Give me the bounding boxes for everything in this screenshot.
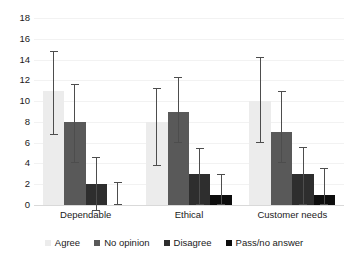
y-tick-label: 2 [25,179,30,189]
legend-item[interactable]: No opinion [94,238,149,248]
chart-legend: AgreeNo opinionDisagreePass/no answer [0,238,348,248]
x-tick-label: Customer needs [257,210,327,220]
error-bar [74,84,75,163]
legend-label: Agree [55,238,80,248]
error-bar [303,147,304,205]
bar-slot [210,18,231,205]
error-bar-cap-top [153,88,161,89]
error-bar-cap-bottom [278,162,286,163]
bar-slot [314,18,335,205]
bar-slot [64,18,85,205]
bar-slot [168,18,189,205]
error-bar-cap-bottom [217,204,225,205]
error-bar-cap-bottom [174,142,182,143]
error-bar-cap-bottom [256,142,264,143]
error-bar [324,168,325,205]
error-bar [221,174,222,205]
legend-swatch-icon [226,240,232,246]
legend-label: Pass/no answer [236,238,304,248]
error-bar [96,157,97,211]
bar-group [241,18,344,205]
error-bar-cap-bottom [196,204,204,205]
error-bar [199,148,200,205]
error-bar-cap-top [256,57,264,58]
error-bar-cap-bottom [114,204,122,205]
error-bar-cap-top [71,84,79,85]
bar-group [137,18,240,205]
legend-item[interactable]: Disagree [164,238,212,248]
bar-chart: 024681012141618 DependableEthicalCustome… [0,0,348,261]
y-tick-label: 4 [25,159,30,169]
y-tick-label: 14 [19,55,30,65]
error-bar [281,91,282,164]
legend-label: No opinion [104,238,149,248]
bar-group [34,18,137,205]
error-bar [260,57,261,142]
error-bar-cap-top [299,147,307,148]
plot-area [34,18,344,205]
bar-slot [107,18,128,205]
bar-slot [271,18,292,205]
bar-slot [43,18,64,205]
y-tick-label: 16 [19,34,30,44]
error-bar-cap-top [174,77,182,78]
y-tick-label: 18 [19,13,30,23]
error-bar-cap-bottom [299,204,307,205]
error-bar [156,88,157,166]
bar-slot [189,18,210,205]
x-tick-label: Dependable [60,210,111,220]
y-tick-label: 12 [19,76,30,86]
error-bar [117,182,118,205]
error-bar-cap-top [217,174,225,175]
axis-baseline [34,205,344,206]
x-tick-label: Ethical [175,210,204,220]
legend-swatch-icon [94,240,100,246]
legend-item[interactable]: Agree [45,238,80,248]
error-bar-cap-top [92,157,100,158]
error-bar-cap-top [196,148,204,149]
bar-slot [146,18,167,205]
y-tick-label: 8 [25,117,30,127]
error-bar-cap-top [320,168,328,169]
error-bar-cap-top [114,182,122,183]
y-tick-label: 6 [25,138,30,148]
legend-swatch-icon [45,240,51,246]
legend-label: Disagree [174,238,212,248]
error-bar-cap-bottom [320,204,328,205]
error-bar-cap-bottom [50,134,58,135]
bar-slot [292,18,313,205]
y-tick-label: 0 [25,200,30,210]
error-bar [178,77,179,142]
error-bar [53,51,54,135]
error-bar-cap-bottom [71,162,79,163]
bar-slot [249,18,270,205]
y-tick-label: 10 [19,96,30,106]
error-bar-cap-top [278,91,286,92]
error-bar-cap-bottom [153,165,161,166]
legend-item[interactable]: Pass/no answer [226,238,304,248]
x-axis: DependableEthicalCustomer needs [34,210,344,226]
legend-swatch-icon [164,240,170,246]
y-axis: 024681012141618 [0,18,30,205]
error-bar-cap-top [50,51,58,52]
bar-slot [86,18,107,205]
